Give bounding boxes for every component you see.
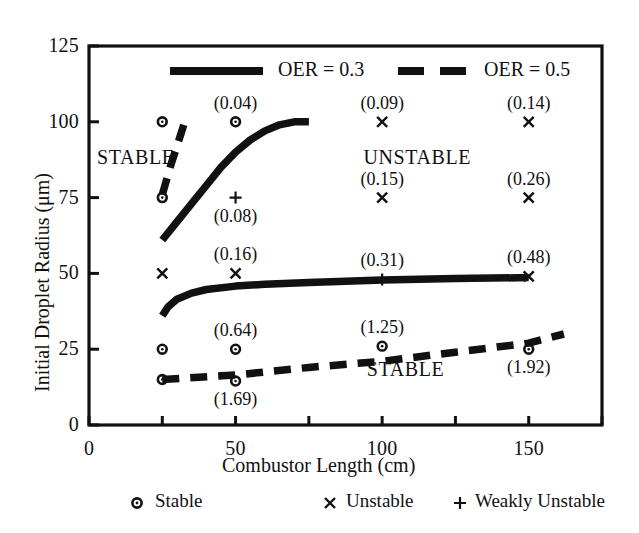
marker-unstable — [231, 268, 241, 278]
region-label: UNSTABLE — [363, 147, 471, 167]
marker-unstable — [377, 193, 387, 203]
key-label-weakly-unstable: Weakly Unstable — [475, 491, 605, 510]
marker-stable-core — [161, 378, 164, 381]
key-label-stable: Stable — [155, 491, 203, 510]
point-value-label: (0.15) — [360, 170, 404, 188]
marker-stable-core — [381, 345, 384, 348]
x-tick-label: 100 — [367, 438, 398, 458]
region-label: STABLE — [367, 359, 445, 379]
circle-marker-icon-core — [136, 502, 139, 505]
point-value-label: (0.48) — [507, 248, 551, 266]
marker-unstable — [524, 193, 534, 203]
curve-solid-lower-boundary — [162, 278, 528, 316]
marker-unstable — [377, 117, 387, 127]
plus-marker-icon — [454, 497, 466, 509]
figure-container: Initial Droplet Radius (μm) Combustor Le… — [0, 0, 639, 533]
x-tick-label: 50 — [225, 438, 245, 458]
marker-stable-core — [161, 196, 164, 199]
point-value-label: (1.25) — [360, 318, 404, 336]
y-tick-label: 25 — [59, 338, 79, 358]
y-tick-label: 0 — [69, 414, 79, 434]
point-value-label: (0.26) — [507, 170, 551, 188]
marker-stable-core — [234, 380, 237, 383]
point-value-label: (0.64) — [214, 321, 258, 339]
x-tick-label: 150 — [513, 438, 544, 458]
marker-unstable — [157, 268, 167, 278]
point-value-label: (0.14) — [507, 94, 551, 112]
point-value-label: (0.31) — [360, 251, 404, 269]
point-value-label: (0.09) — [360, 94, 404, 112]
marker-weakly-unstable — [230, 192, 242, 204]
legend-label-oer-05: OER = 0.5 — [484, 59, 570, 79]
y-tick-label: 100 — [48, 111, 79, 131]
key-label-unstable: Unstable — [346, 491, 414, 510]
y-tick-label: 50 — [59, 262, 79, 282]
y-tick-label: 75 — [59, 187, 79, 207]
marker-stable-core — [234, 121, 237, 124]
marker-stable-core — [161, 121, 164, 124]
legend-label-oer-03: OER = 0.3 — [278, 59, 364, 79]
point-value-label: (0.16) — [214, 245, 258, 263]
x-tick-label: 0 — [84, 438, 94, 458]
point-value-label: (1.92) — [507, 358, 551, 376]
y-tick-label: 125 — [48, 35, 79, 55]
point-value-label: (1.69) — [214, 390, 258, 408]
y-axis-title: Initial Droplet Radius (μm) — [32, 173, 52, 392]
marker-stable-core — [234, 348, 237, 351]
cross-marker-icon — [325, 498, 335, 508]
curve-dashed-lower-boundary — [162, 334, 564, 380]
marker-unstable — [524, 117, 534, 127]
marker-stable-core — [527, 348, 530, 351]
region-label: STABLE — [97, 147, 175, 167]
point-value-label: (0.08) — [214, 207, 258, 225]
marker-stable-core — [161, 348, 164, 351]
point-value-label: (0.04) — [214, 94, 258, 112]
